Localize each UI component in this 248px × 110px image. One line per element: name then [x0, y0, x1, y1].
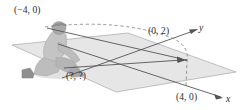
target-point-marker [185, 59, 187, 61]
x-axis-label: x [226, 95, 230, 105]
point-label-four-zero: (4, 0) [176, 93, 197, 103]
figure-canvas [0, 0, 248, 110]
point-label-negative-four-zero: (−4, 0) [14, 6, 41, 16]
y-axis-label: y [199, 24, 203, 34]
point-label-unknown: (?, ?) [66, 72, 86, 82]
coordinate-plane-figure: (−4, 0) (0, 2) (4, 0) (?, ?) y x [0, 0, 248, 110]
point-label-zero-two: (0, 2) [148, 27, 169, 37]
